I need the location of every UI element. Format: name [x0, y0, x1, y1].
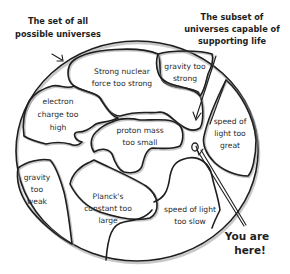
- svg-text:weak: weak: [27, 197, 48, 206]
- svg-text:too slow: too slow: [174, 217, 206, 226]
- svg-text:electron: electron: [42, 97, 73, 106]
- label-speed-slow: speed of light too slow: [164, 205, 216, 226]
- svg-text:The subset of: The subset of: [201, 12, 264, 22]
- label-proton-mass: proton mass too small: [116, 126, 163, 147]
- label-universe-set: The set of all possible universes: [15, 16, 101, 39]
- svg-text:force too strong: force too strong: [92, 79, 153, 88]
- svg-text:large: large: [98, 216, 118, 225]
- svg-text:constant too: constant too: [84, 204, 132, 213]
- svg-text:great: great: [220, 141, 240, 150]
- svg-text:strong: strong: [173, 74, 197, 83]
- svg-text:The set of all: The set of all: [28, 16, 88, 26]
- svg-text:universes capable of: universes capable of: [184, 24, 280, 34]
- svg-text:Strong nuclear: Strong nuclear: [94, 67, 151, 76]
- svg-text:too: too: [31, 185, 44, 194]
- fine-tuning-diagram: The set of all possible universes The su…: [0, 0, 290, 274]
- label-electron-charge: electron charge too high: [38, 97, 79, 132]
- label-speed-great: speed of light too great: [214, 117, 247, 150]
- svg-text:charge too: charge too: [38, 110, 79, 119]
- label-gravity-strong: gravity too strong: [164, 62, 206, 83]
- label-strong-nuclear: Strong nuclear force too strong: [92, 67, 153, 88]
- svg-text:gravity too: gravity too: [164, 62, 206, 71]
- svg-text:speed of: speed of: [214, 117, 247, 126]
- universe-set-pointer: [52, 54, 63, 61]
- svg-text:supporting life: supporting life: [198, 36, 267, 46]
- diagram-canvas: The set of all possible universes The su…: [0, 0, 290, 274]
- svg-text:possible universes: possible universes: [15, 29, 101, 39]
- svg-text:proton mass: proton mass: [116, 126, 163, 135]
- svg-text:You are: You are: [224, 230, 269, 242]
- label-gravity-weak: gravity too weak: [24, 173, 51, 206]
- svg-text:high: high: [50, 123, 67, 132]
- label-life-subset: The subset of universes capable of suppo…: [184, 12, 280, 46]
- svg-text:too small: too small: [123, 138, 158, 147]
- svg-text:speed of light: speed of light: [164, 205, 216, 214]
- svg-text:gravity: gravity: [24, 173, 51, 182]
- svg-text:here!: here!: [234, 244, 266, 256]
- label-you-are-here: You are here!: [224, 230, 269, 256]
- svg-text:light too: light too: [214, 129, 246, 138]
- svg-text:Planck's: Planck's: [93, 192, 124, 201]
